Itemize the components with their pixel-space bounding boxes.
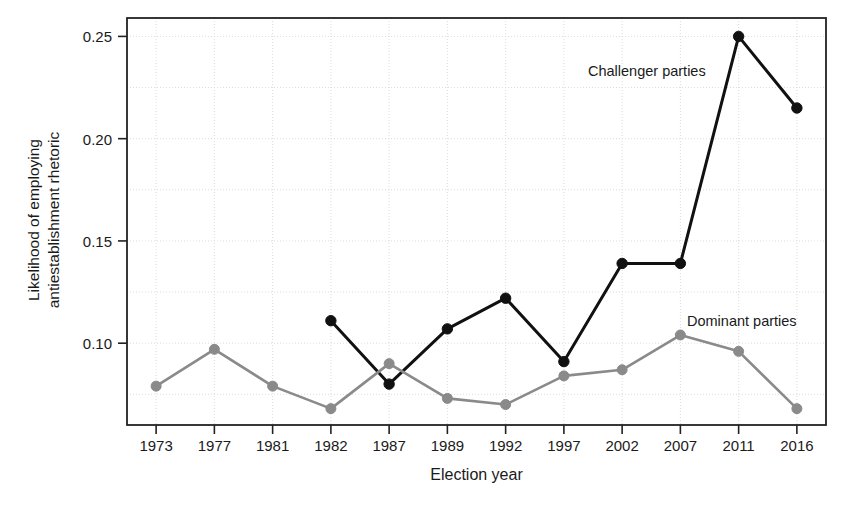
data-point: [559, 356, 569, 366]
x-tick-label: 1973: [126, 437, 186, 454]
chart-figure: Likelihood of employing antiestablishmen…: [0, 0, 858, 505]
data-point: [500, 293, 510, 303]
y-tick-label: 0.10: [66, 335, 112, 352]
data-point: [559, 371, 569, 381]
data-point: [734, 346, 744, 356]
data-point: [209, 344, 219, 354]
x-tick-label: 1989: [417, 437, 477, 454]
x-tick-label: 1992: [476, 437, 536, 454]
x-tick-label: 1997: [534, 437, 594, 454]
data-point: [675, 330, 685, 340]
series-dominant-parties: [151, 330, 802, 414]
x-tick-label: 1982: [301, 437, 361, 454]
y-tick-label: 0.25: [66, 28, 112, 45]
grid-lines: [127, 18, 826, 425]
plot-canvas: [0, 0, 858, 505]
data-point: [675, 258, 685, 268]
data-point: [326, 404, 336, 414]
y-axis-label-line-1: Likelihood of employing: [24, 132, 44, 309]
x-tick-label: 2002: [592, 437, 652, 454]
x-tick-label: 2016: [767, 437, 827, 454]
x-tick-label: 2007: [650, 437, 710, 454]
y-axis-label: Likelihood of employing antiestablishmen…: [14, 0, 74, 440]
data-point: [442, 324, 452, 334]
data-point: [384, 359, 394, 369]
data-point: [501, 400, 511, 410]
x-tick-label: 1977: [184, 437, 244, 454]
data-point: [617, 365, 627, 375]
y-tick-label: 0.20: [66, 131, 112, 148]
data-point: [268, 381, 278, 391]
y-axis-label-line-2: antiestablishment rhetoric: [44, 132, 64, 309]
plot-frame: [127, 18, 826, 425]
data-point: [326, 315, 336, 325]
x-tick-label: 2011: [709, 437, 769, 454]
series-annotation-challenger-parties: Challenger parties: [588, 63, 706, 79]
data-point: [384, 379, 394, 389]
data-point: [733, 31, 743, 41]
x-tick-label: 1981: [243, 437, 303, 454]
axis-ticks: [118, 36, 797, 434]
series-annotation-dominant-parties: Dominant parties: [687, 313, 797, 329]
data-point: [617, 258, 627, 268]
data-point: [442, 393, 452, 403]
y-tick-label: 0.15: [66, 233, 112, 250]
x-axis-label: Election year: [127, 466, 826, 484]
x-tick-label: 1987: [359, 437, 419, 454]
data-point: [151, 381, 161, 391]
data-point: [792, 404, 802, 414]
data-point: [792, 103, 802, 113]
